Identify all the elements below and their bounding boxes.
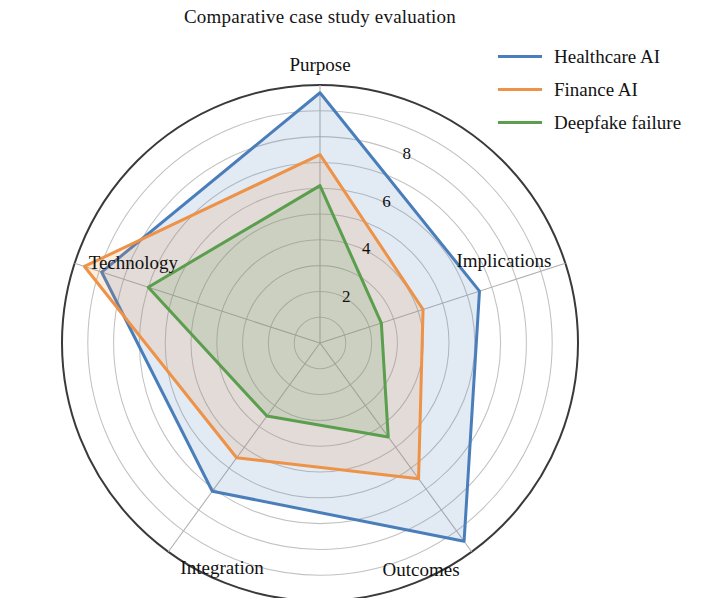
legend-swatch-healthcare-ai bbox=[498, 55, 542, 58]
legend-swatch-finance-ai bbox=[498, 88, 542, 91]
legend-item-healthcare-ai[interactable]: Healthcare AI bbox=[498, 40, 708, 73]
radial-tick-6: 6 bbox=[382, 192, 391, 211]
axis-label-integration: Integration bbox=[180, 557, 264, 578]
axis-label-technology: Technology bbox=[89, 252, 179, 273]
radial-tick-8: 8 bbox=[402, 144, 411, 163]
legend-label-finance-ai: Finance AI bbox=[554, 79, 638, 101]
radial-tick-4: 4 bbox=[362, 239, 371, 258]
axis-label-outcomes: Outcomes bbox=[383, 559, 460, 580]
axis-label-implications: Implications bbox=[456, 250, 551, 271]
radar-chart-figure: Comparative case study evaluation 2468 P… bbox=[0, 0, 708, 598]
legend-item-deepfake-failure[interactable]: Deepfake failure bbox=[498, 106, 708, 139]
axis-label-purpose: Purpose bbox=[289, 54, 350, 75]
series-layer bbox=[84, 93, 479, 542]
legend-swatch-deepfake-failure bbox=[498, 121, 542, 124]
radial-tick-2: 2 bbox=[342, 287, 351, 306]
legend-label-healthcare-ai: Healthcare AI bbox=[554, 46, 660, 68]
legend-label-deepfake-failure: Deepfake failure bbox=[554, 112, 681, 134]
chart-legend: Healthcare AI Finance AI Deepfake failur… bbox=[492, 36, 708, 145]
legend-item-finance-ai[interactable]: Finance AI bbox=[498, 73, 708, 106]
